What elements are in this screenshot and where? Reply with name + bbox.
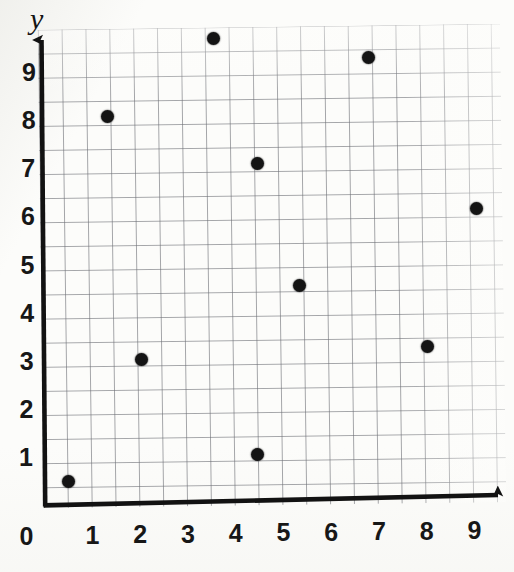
- y-tick-label-7: 7: [21, 156, 35, 181]
- x-tick-label-5: 5: [276, 520, 290, 545]
- x-tick-label-3: 3: [181, 522, 195, 547]
- origin-tick-label: 0: [20, 524, 34, 549]
- x-tick-label-4: 4: [229, 521, 243, 546]
- x-tick-label-9: 9: [467, 518, 481, 543]
- data-point: [135, 353, 148, 366]
- x-tick-label-7: 7: [372, 519, 386, 544]
- data-point: [207, 32, 220, 45]
- graph-paper-grid: [38, 24, 506, 508]
- grid-lines: [38, 24, 506, 508]
- data-point: [470, 202, 483, 215]
- y-tick-label-8: 8: [22, 108, 36, 133]
- y-axis-label: y: [30, 2, 43, 36]
- x-tick-label-2: 2: [133, 522, 147, 547]
- scatter-plot-figure: y 0 123456789 123456789: [0, 0, 514, 572]
- data-point: [62, 475, 75, 488]
- y-tick-label-1: 1: [19, 445, 33, 470]
- data-point: [251, 157, 264, 170]
- data-point: [251, 448, 264, 461]
- y-tick-label-3: 3: [20, 349, 34, 374]
- y-tick-label-4: 4: [20, 300, 34, 325]
- data-point: [293, 279, 306, 292]
- y-tick-label-2: 2: [19, 397, 33, 422]
- y-tick-label-5: 5: [21, 252, 35, 277]
- x-tick-label-1: 1: [85, 523, 99, 548]
- data-point: [362, 51, 375, 64]
- y-tick-label-9: 9: [22, 59, 36, 84]
- x-tick-label-6: 6: [324, 520, 338, 545]
- y-tick-label-6: 6: [21, 204, 35, 229]
- x-tick-label-8: 8: [420, 519, 434, 544]
